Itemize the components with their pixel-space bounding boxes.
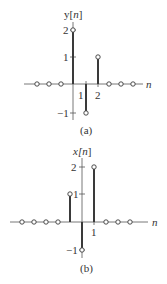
panel-a-sample-nm1: [59, 82, 63, 86]
panel-a-x-axis-label: n: [146, 78, 152, 90]
panel-b-sample-nm1: [68, 192, 72, 196]
figure: y[n] 2 1 −1 1 2 n (a) x[n]: [0, 0, 167, 284]
panel-b-sample-n4: [128, 220, 132, 224]
panel-b-sample-nm3: [44, 220, 48, 224]
panel-a-sample-n3: [107, 82, 111, 86]
panel-a-sample-n1: [84, 111, 88, 115]
panel-a-sample-n2: [96, 55, 100, 59]
panel-b-sample-n2: [104, 220, 108, 224]
panel-a-caption: (a): [80, 124, 93, 137]
panel-b-xtick-label-1: 1: [91, 226, 97, 238]
panel-b-sample-n1: [92, 165, 96, 169]
panel-b-sample-nm2: [56, 220, 60, 224]
panel-a-xtick-label-1: 1: [78, 89, 84, 101]
panel-b-caption: (b): [80, 262, 93, 275]
panel-b-ytick-label-1: 1: [73, 188, 79, 200]
panel-a-ytick-label-m1: −1: [57, 107, 69, 119]
panel-b-ytick-label-2: 2: [71, 161, 77, 173]
panel-a-ytick-label-2: 2: [63, 24, 69, 36]
panel-b-sample-nm4: [32, 220, 36, 224]
panel-a-ytick-label-1: 1: [63, 51, 69, 63]
panel-a-sample-n0: [71, 28, 75, 32]
panel-a-sample-nm2: [47, 82, 51, 86]
panel-b-sample-n0: [80, 248, 84, 252]
panel-b-ytick-label-m1: −1: [66, 244, 78, 256]
panel-b-y-axis-label: x[n]: [72, 145, 91, 157]
panel-a-xtick-label-2: 2: [95, 89, 101, 101]
panel-b-sample-nm5: [20, 220, 24, 224]
panel-b-x-n-plot: x[n] 2 1 −1 1 n (b): [10, 145, 158, 275]
panel-a-sample-nm3: [35, 82, 39, 86]
panel-b-sample-n3: [116, 220, 120, 224]
panel-a-y-axis-label: y[n]: [64, 8, 82, 20]
panel-a-sample-n4: [119, 82, 123, 86]
panel-a-sample-n5: [131, 82, 135, 86]
panel-b-x-axis-label: n: [152, 216, 158, 228]
panel-a-y-n-plot: y[n] 2 1 −1 1 2 n (a): [24, 8, 152, 137]
